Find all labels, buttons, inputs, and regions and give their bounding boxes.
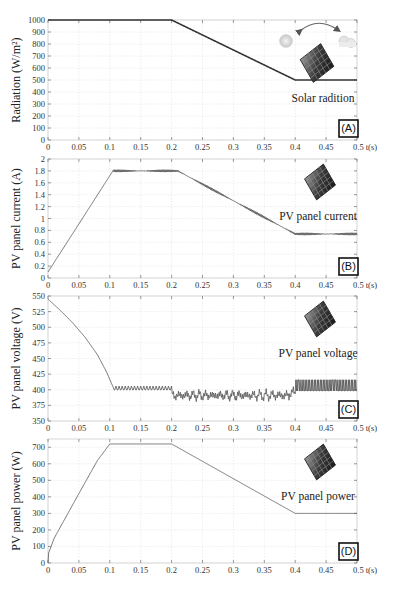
x-tick-label: 0.2 [166,565,177,575]
x-tick-label: 0.2 [166,423,177,433]
x-tick-label: 0.1 [104,565,115,575]
chart-annotation: Solar radition [292,92,355,104]
x-tick-label: 0.15 [133,280,148,290]
y-tick-label: 900 [32,27,45,37]
y-tick-label: 1.6 [34,178,45,188]
x-tick-label: 0.4 [290,423,301,433]
y-tick-label: 200 [32,111,45,121]
x-tick-label: 0.1 [104,280,115,290]
x-tick-labels: 00.050.10.150.20.250.30.350.40.450.5 t(s… [46,565,377,575]
x-tick-label: 0.1 [104,142,115,152]
x-tick-label: 0.25 [195,142,210,152]
x-tick-label: 0.4 [290,142,301,152]
x-tick-label: 0.3 [228,142,239,152]
x-tick-label: 0.15 [133,142,148,152]
x-tick-label: 0.25 [195,565,210,575]
x-tick-label: 0 [46,423,50,433]
y-tick-labels: 01002003004005006007008009001000 [28,15,45,145]
y-tick-label: 1 [41,214,45,224]
y-tick-label: 475 [32,338,45,348]
y-axis-label: PV panel voltage (V) [9,307,23,409]
y-axis-label: PV panel power (W) [9,451,23,550]
y-tick-labels: 0100200300400500600700 [32,442,45,568]
chart-annotation: PV panel current [279,210,358,223]
x-tick-label: 0.15 [133,565,148,575]
y-tick-label: 300 [32,508,45,518]
y-tick-label: 500 [32,75,45,85]
y-tick-label: 700 [32,51,45,61]
panel-badge: (B) [339,258,358,275]
x-tick-label: 0.3 [228,423,239,433]
x-tick-label: 0 [46,142,50,152]
x-tick-label: 0 [46,565,50,575]
y-tick-label: 425 [32,369,45,379]
y-tick-label: 0.8 [34,225,45,235]
chart-panel-current: 00.050.10.150.20.250.30.350.40.450.5 t(s… [9,154,377,290]
x-tick-label: 0.45 [319,423,334,433]
y-tick-labels: 350375400425450475500525550 [32,291,45,426]
x-tick-label: 0.5 t(s) [353,565,377,575]
panel-badge: (C) [339,401,358,418]
y-tick-label: 1.2 [34,202,45,212]
y-tick-label: 1.4 [34,190,45,200]
x-tick-labels: 00.050.10.150.20.250.30.350.40.450.5 t(s… [46,142,377,152]
y-axis-label: PV panel current (A) [9,168,23,269]
y-tick-label: 350 [32,416,45,426]
x-tick-label: 0.3 [228,565,239,575]
x-tick-label: 0.45 [319,280,334,290]
x-tick-label: 0.1 [104,423,115,433]
y-tick-label: 0 [41,273,45,283]
chart-annotation: PV panel power [281,490,355,503]
y-tick-label: 0.2 [34,261,45,271]
panel-badge: (A) [339,120,358,137]
y-tick-label: 0 [41,135,45,145]
x-tick-label: 0.35 [257,280,272,290]
x-tick-label: 0.45 [319,142,334,152]
chart-annotation: PV panel voltage [279,347,358,360]
y-tick-label: 525 [32,307,45,317]
y-tick-label: 100 [32,541,45,551]
x-tick-label: 0.5 t(s) [353,280,377,290]
y-tick-label: 550 [32,291,45,301]
figure: 00.050.10.150.20.250.30.350.40.450.5 t(s… [0,0,395,593]
x-tick-label: 0.5 t(s) [353,142,377,152]
y-tick-label: 1.8 [34,166,45,176]
sun-icon [280,35,293,48]
x-tick-label: 0.15 [133,423,148,433]
y-tick-label: 700 [32,442,45,452]
x-tick-labels: 00.050.10.150.20.250.30.350.40.450.5 t(s… [46,423,377,433]
y-tick-label: 500 [32,475,45,485]
x-tick-label: 0.05 [71,280,86,290]
y-tick-label: 500 [32,322,45,332]
y-tick-label: 100 [32,123,45,133]
x-tick-labels: 00.050.10.150.20.250.30.350.40.450.5 t(s… [46,280,377,290]
y-tick-label: 400 [32,87,45,97]
chart-panel-power: 00.050.10.150.20.250.30.350.40.450.5 t(s… [9,439,377,575]
y-tick-labels: 00.20.40.60.811.21.41.61.82 [34,154,45,283]
y-tick-label: 600 [32,459,45,469]
svg-text:(C): (C) [341,403,356,415]
x-tick-label: 0.4 [290,280,301,290]
svg-text:(A): (A) [341,122,356,134]
x-tick-label: 0.45 [319,565,334,575]
x-tick-label: 0.35 [257,565,272,575]
chart-panel-radiation: 00.050.10.150.20.250.30.350.40.450.5 t(s… [9,15,377,152]
x-tick-label: 0 [46,280,50,290]
x-tick-label: 0.4 [290,565,301,575]
x-tick-label: 0.2 [166,142,177,152]
y-tick-label: 200 [32,525,45,535]
y-tick-label: 1000 [28,15,45,25]
x-tick-label: 0.2 [166,280,177,290]
y-tick-label: 2 [41,154,45,164]
y-tick-label: 0 [41,558,45,568]
y-tick-label: 300 [32,99,45,109]
x-tick-label: 0.5 t(s) [353,423,377,433]
svg-text:(D): (D) [341,545,356,557]
y-tick-label: 400 [32,492,45,502]
y-tick-label: 400 [32,385,45,395]
y-tick-label: 450 [32,354,45,364]
x-tick-label: 0.05 [71,565,86,575]
x-tick-label: 0.25 [195,280,210,290]
y-axis-label: Radiation (W/m²) [9,37,23,122]
x-tick-label: 0.35 [257,423,272,433]
